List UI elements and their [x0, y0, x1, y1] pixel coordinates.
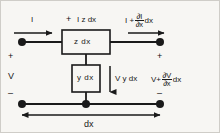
- figure-canvas: I + I z dx I +∂I∂xdx z dx y dx V y dx + …: [0, 0, 220, 133]
- series-impedance-box-label: z dx: [74, 38, 91, 46]
- current-out-base: I +: [125, 17, 134, 25]
- segment-length-label: dx: [84, 120, 94, 129]
- right-port-plus-sign: +: [157, 52, 162, 61]
- current-out-label: I +∂I∂xdx: [125, 13, 153, 30]
- voltage-out-label: V+∂V∂xdx: [151, 72, 181, 89]
- voltage-out-denominator: ∂x: [162, 79, 173, 88]
- left-port-plus-sign: +: [8, 52, 13, 61]
- current-in-label: I: [31, 16, 33, 24]
- voltage-out-base: V+: [151, 76, 161, 84]
- series-voltage-drop-label: I z dx: [77, 16, 96, 24]
- series-drop-plus-sign: +: [66, 15, 71, 24]
- voltage-in-label: V: [8, 72, 14, 81]
- left-port-minus-sign: –: [8, 89, 13, 98]
- current-out-denominator: ∂x: [135, 20, 144, 29]
- shunt-admittance-box-label: y dx: [77, 74, 94, 82]
- voltage-out-fraction: ∂V∂x: [162, 72, 173, 89]
- transmission-line-segment-diagram: I + I z dx I +∂I∂xdx z dx y dx V y dx + …: [0, 0, 220, 133]
- voltage-out-tail: dx: [173, 76, 181, 84]
- current-out-numerator: ∂I: [135, 13, 144, 21]
- current-out-tail: dx: [145, 17, 153, 25]
- right-port-minus-sign: –: [157, 89, 162, 98]
- voltage-out-numerator: ∂V: [162, 72, 173, 80]
- current-out-fraction: ∂I∂x: [135, 13, 144, 30]
- shunt-current-label: V y dx: [115, 75, 137, 83]
